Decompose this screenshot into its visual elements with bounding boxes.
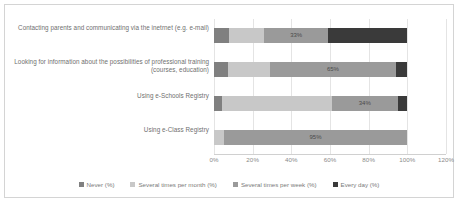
legend-item: Several times per month (%) [130, 181, 216, 188]
legend-item: Every day (%) [333, 181, 380, 188]
legend-swatch-icon [233, 182, 238, 187]
chart-row: Looking for information about the possib… [5, 53, 453, 87]
bar-segment: 65% [270, 62, 396, 77]
legend-label: Several times per month (%) [138, 181, 216, 188]
bar-segment: 95% [224, 130, 408, 145]
chart-row: Contacting parents and communicating via… [5, 19, 453, 53]
x-tick-label: 100% [390, 156, 424, 163]
data-label: 34% [332, 96, 398, 111]
bar-segment [229, 28, 264, 43]
category-label: Contacting parents and communicating via… [13, 24, 209, 32]
chart-frame: Contacting parents and communicating via… [4, 4, 454, 198]
category-label: Looking for information about the possib… [13, 58, 209, 74]
chart-row: Using e-Schools Registry34% [5, 87, 453, 121]
x-tick-label: 60% [313, 156, 347, 163]
category-label: Using e-Schools Registry [13, 92, 209, 100]
bar-segment [222, 96, 332, 111]
legend-label: Never (%) [87, 181, 115, 188]
bar-segment [214, 96, 222, 111]
bar-segment [398, 96, 408, 111]
legend-label: Every day (%) [341, 181, 380, 188]
stacked-bar: 95% [214, 130, 407, 145]
x-tick-label: 80% [352, 156, 386, 163]
data-label: 33% [264, 28, 328, 43]
bar-segment [214, 130, 224, 145]
x-tick-label: 20% [236, 156, 270, 163]
legend-swatch-icon [130, 182, 135, 187]
bar-segment [396, 62, 408, 77]
bar-segment [328, 28, 407, 43]
legend-swatch-icon [79, 182, 84, 187]
x-tick-label: 40% [274, 156, 308, 163]
bar-segment: 34% [332, 96, 398, 111]
x-tick-label: 0% [197, 156, 231, 163]
chart-row: Using e-Class Registry95% [5, 121, 453, 155]
bar-segment [228, 62, 271, 77]
legend-swatch-icon [333, 182, 338, 187]
x-tick-label: 120% [429, 156, 461, 163]
stacked-bar: 65% [214, 62, 407, 77]
legend-label: Several times per week (%) [241, 181, 317, 188]
data-label: 95% [224, 130, 408, 145]
data-label: 65% [270, 62, 396, 77]
legend-item: Never (%) [79, 181, 115, 188]
bar-segment [214, 28, 229, 43]
legend-item: Several times per week (%) [233, 181, 317, 188]
chart-legend: Never (%)Several times per month (%)Seve… [5, 177, 453, 191]
category-label: Using e-Class Registry [13, 126, 209, 134]
bar-segment: 33% [264, 28, 328, 43]
stacked-bar: 34% [214, 96, 407, 111]
stacked-bar: 33% [214, 28, 407, 43]
bar-segment [214, 62, 228, 77]
x-axis-line [214, 154, 446, 155]
chart-plot-area: Contacting parents and communicating via… [5, 5, 453, 197]
